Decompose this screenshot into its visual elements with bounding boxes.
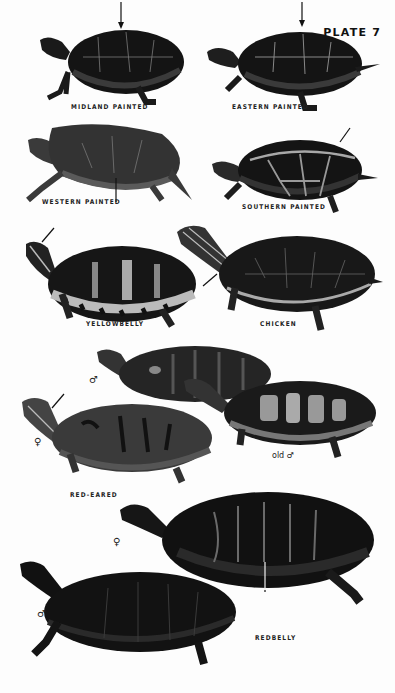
field-guide-plate: PLATE 7 MIDLAND PAINTED EASTERN PAINTED	[0, 0, 395, 693]
midland-painted-illustration	[38, 2, 188, 107]
redbelly-male-illustration	[18, 558, 238, 673]
western-painted-label: WESTERN PAINTED	[42, 198, 121, 206]
red-eared-female-symbol: ♀	[34, 436, 41, 447]
chicken-label: CHICKEN	[260, 320, 297, 328]
redbelly-female-symbol: ♀	[113, 536, 120, 547]
eastern-painted-illustration	[205, 2, 385, 112]
yellowbelly-label: YELLOWBELLY	[86, 320, 144, 328]
redbelly-male-symbol: ♂	[37, 608, 46, 619]
red-eared-old-male-label: old ♂	[272, 451, 294, 460]
red-eared-female-illustration	[20, 388, 215, 488]
redbelly-label: REDBELLY	[255, 634, 296, 642]
red-eared-male-symbol: ♂	[89, 374, 98, 385]
red-eared-label: RED-EARED	[70, 491, 118, 499]
eastern-painted-label: EASTERN PAINTED	[232, 103, 309, 111]
southern-painted-label: SOUTHERN PAINTED	[242, 203, 326, 211]
midland-painted-label: MIDLAND PAINTED	[71, 103, 149, 111]
